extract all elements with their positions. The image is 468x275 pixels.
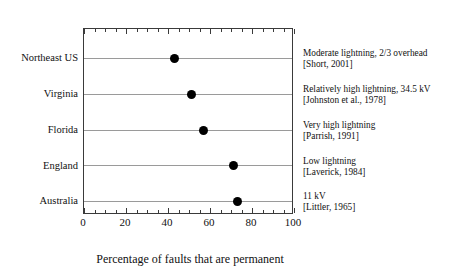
x-tick-minor xyxy=(242,29,243,32)
x-tick-major xyxy=(294,208,295,213)
x-tick-label: 40 xyxy=(162,216,173,228)
x-tick-minor xyxy=(95,210,96,213)
x-tick-minor xyxy=(263,29,264,32)
annotation-description: Moderate lightning, 2/3 overhead xyxy=(303,48,427,59)
x-tick-minor xyxy=(179,29,180,32)
x-tick-minor xyxy=(284,210,285,213)
x-tick-minor xyxy=(105,29,106,32)
x-tick-major xyxy=(84,29,85,34)
x-tick-minor xyxy=(116,210,117,213)
data-point xyxy=(170,54,179,63)
x-tick-major xyxy=(126,208,127,213)
annotation-description: Relatively high lightning, 34.5 kV xyxy=(303,84,431,95)
x-tick-minor xyxy=(179,210,180,213)
data-point xyxy=(187,90,196,99)
annotation-block: Very high lightning [Parrish, 1991] xyxy=(303,120,375,141)
category-label: Virginia xyxy=(0,88,78,99)
annotation-citation: [Laverick, 1984] xyxy=(303,167,365,178)
category-label: Florida xyxy=(0,124,78,135)
x-tick-minor xyxy=(263,210,264,213)
x-tick-minor xyxy=(273,29,274,32)
x-tick-label: 0 xyxy=(80,216,86,228)
annotation-description: Low lightning xyxy=(303,156,365,167)
x-tick-minor xyxy=(158,29,159,32)
x-tick-minor xyxy=(189,210,190,213)
annotation-citation: [Johnston et al., 1978] xyxy=(303,95,431,106)
x-tick-major xyxy=(210,29,211,34)
annotation-block: Moderate lightning, 2/3 overhead [Short,… xyxy=(303,48,427,69)
x-tick-major xyxy=(126,29,127,34)
x-tick-major xyxy=(252,29,253,34)
data-point xyxy=(233,197,242,206)
x-tick-major xyxy=(210,208,211,213)
x-tick-major xyxy=(252,208,253,213)
x-tick-minor xyxy=(200,29,201,32)
x-tick-minor xyxy=(116,29,117,32)
x-tick-label: 60 xyxy=(204,216,215,228)
x-tick-minor xyxy=(231,210,232,213)
x-tick-minor xyxy=(137,210,138,213)
category-label: Australia xyxy=(0,195,78,206)
gridline-row xyxy=(84,58,292,59)
x-tick-minor xyxy=(189,29,190,32)
gridline-row xyxy=(84,201,292,202)
x-tick-minor xyxy=(221,210,222,213)
plot-area xyxy=(83,28,293,214)
x-tick-minor xyxy=(158,210,159,213)
x-tick-minor xyxy=(242,210,243,213)
gridline-row xyxy=(84,130,292,131)
annotation-block: 11 kV [Littler, 1965] xyxy=(303,191,355,212)
x-tick-minor xyxy=(95,29,96,32)
x-tick-major xyxy=(84,208,85,213)
x-axis-title: Percentage of faults that are permanent xyxy=(0,252,380,266)
x-tick-minor xyxy=(273,210,274,213)
gridline-row xyxy=(84,165,292,166)
category-label: England xyxy=(0,160,78,171)
annotation-description: Very high lightning xyxy=(303,120,375,131)
x-tick-minor xyxy=(221,29,222,32)
annotation-citation: [Parrish, 1991] xyxy=(303,131,375,142)
x-tick-minor xyxy=(137,29,138,32)
annotation-block: Relatively high lightning, 34.5 kV [John… xyxy=(303,84,431,105)
x-tick-label: 80 xyxy=(246,216,257,228)
annotation-description: 11 kV xyxy=(303,191,355,202)
data-point xyxy=(199,126,208,135)
x-tick-minor xyxy=(105,210,106,213)
annotation-citation: [Littler, 1965] xyxy=(303,202,355,213)
x-tick-major xyxy=(294,29,295,34)
x-tick-label: 20 xyxy=(120,216,131,228)
x-tick-major xyxy=(168,29,169,34)
data-point xyxy=(229,161,238,170)
annotation-citation: [Short, 2001] xyxy=(303,59,427,70)
x-tick-minor xyxy=(147,29,148,32)
category-label: Northeast US xyxy=(0,52,78,63)
x-tick-minor xyxy=(231,29,232,32)
x-tick-major xyxy=(168,208,169,213)
x-tick-minor xyxy=(284,29,285,32)
x-tick-minor xyxy=(200,210,201,213)
figure-dot-plot: Northeast US Virginia Florida England Au… xyxy=(0,0,468,275)
annotation-block: Low lightning [Laverick, 1984] xyxy=(303,156,365,177)
x-tick-label: 100 xyxy=(285,216,302,228)
x-tick-minor xyxy=(147,210,148,213)
